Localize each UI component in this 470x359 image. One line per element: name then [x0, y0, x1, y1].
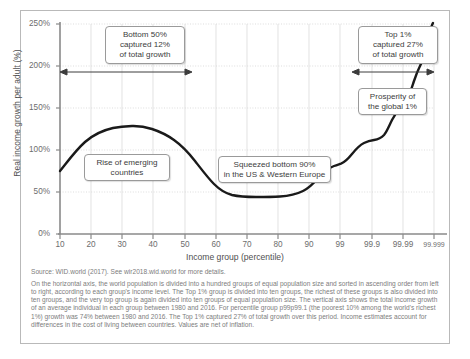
- chart-plot-area: Real income growth per adult (%) 250% 20…: [0, 0, 470, 265]
- bottom-50-arrow: [60, 69, 192, 75]
- footnotes-block: Source: WID.world (2017). See wir2018.wi…: [31, 268, 441, 329]
- squeezed-note: Squeezed bottom 90% in the US & Western …: [218, 156, 331, 183]
- prosperity-note-line2: the global 1%: [363, 102, 422, 112]
- footnote-paragraph: On the horizontal axis, the world popula…: [31, 280, 441, 329]
- top-1-note-line2: captured 27%: [363, 40, 433, 50]
- y-tick-200: 200%: [16, 61, 50, 70]
- y-tick-50: 50%: [16, 187, 50, 196]
- top-1-arrow: [352, 69, 434, 75]
- bottom-50-note-line1: Bottom 50%: [110, 30, 180, 40]
- bottom-50-note-line3: of total growth: [110, 50, 180, 60]
- y-tick-0: 0%: [16, 229, 50, 238]
- y-axis-title: Real income growth per adult (%): [12, 13, 22, 213]
- squeezed-note-line1: Squeezed bottom 90%: [223, 160, 326, 170]
- rise-emerging-note: Rise of emerging countries: [84, 154, 170, 181]
- bottom-50-note-line2: captured 12%: [110, 40, 180, 50]
- prosperity-note-line1: Prosperity of: [363, 92, 422, 102]
- top-1-note-line3: of total growth: [363, 50, 433, 60]
- footnote-body: On the horizontal axis, the world popula…: [31, 280, 441, 329]
- rise-emerging-note-line2: countries: [89, 168, 165, 178]
- bottom-50-note: Bottom 50% captured 12% of total growth: [105, 26, 185, 64]
- prosperity-note: Prosperity of the global 1%: [358, 88, 427, 115]
- x-tick-99-999: 99.999: [414, 241, 454, 248]
- squeezed-note-line2: in the US & Western Europe: [223, 170, 326, 180]
- source-line: Source: WID.world (2017). See wir2018.wi…: [31, 268, 441, 276]
- y-tick-150: 150%: [16, 103, 50, 112]
- y-tick-100: 100%: [16, 145, 50, 154]
- elephant-curve-figure: Real income growth per adult (%) 250% 20…: [0, 0, 470, 359]
- x-axis-title: Income group (percentile): [0, 252, 470, 262]
- top-1-note: Top 1% captured 27% of total growth: [358, 26, 438, 64]
- top-1-note-line1: Top 1%: [363, 30, 433, 40]
- rise-emerging-note-line1: Rise of emerging: [89, 158, 165, 168]
- y-tick-250: 250%: [16, 19, 50, 28]
